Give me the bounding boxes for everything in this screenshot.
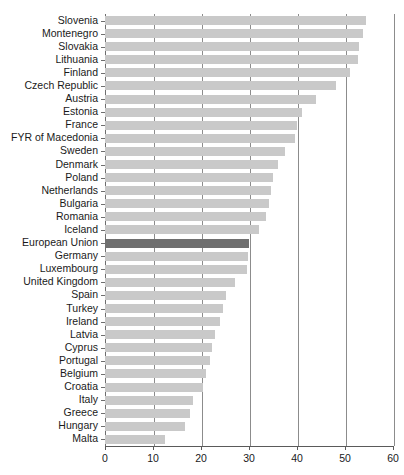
y-axis-tick bbox=[101, 309, 105, 310]
y-axis-tick bbox=[101, 191, 105, 192]
y-axis-tick bbox=[101, 34, 105, 35]
y-axis-tick bbox=[101, 374, 105, 375]
bar bbox=[105, 435, 165, 444]
y-axis-tick bbox=[101, 178, 105, 179]
y-axis-label: Poland bbox=[0, 172, 98, 183]
y-axis-tick bbox=[101, 348, 105, 349]
y-axis-label: FYR of Macedonia bbox=[0, 132, 98, 143]
y-axis-tick bbox=[101, 217, 105, 218]
y-axis-tick bbox=[101, 86, 105, 87]
bar bbox=[105, 108, 302, 117]
y-axis-label: France bbox=[0, 119, 98, 130]
bar bbox=[105, 369, 206, 378]
bar bbox=[105, 212, 266, 221]
bar bbox=[105, 199, 269, 208]
bar bbox=[105, 291, 226, 300]
bar bbox=[105, 186, 271, 195]
y-axis-tick bbox=[101, 99, 105, 100]
y-axis-tick bbox=[101, 282, 105, 283]
y-axis-tick bbox=[101, 112, 105, 113]
bar bbox=[105, 239, 249, 248]
y-axis-label: Romania bbox=[0, 211, 98, 222]
bar bbox=[105, 68, 350, 77]
y-axis-label: Czech Republic bbox=[0, 80, 98, 91]
y-axis-label: Montenegro bbox=[0, 28, 98, 39]
x-axis-tick bbox=[393, 446, 394, 450]
bar bbox=[105, 356, 210, 365]
bar bbox=[105, 383, 203, 392]
bar bbox=[105, 160, 278, 169]
y-axis-label: Sweden bbox=[0, 145, 98, 156]
y-axis-label: Austria bbox=[0, 93, 98, 104]
y-axis-tick bbox=[101, 204, 105, 205]
bar bbox=[105, 173, 273, 182]
y-axis-tick bbox=[101, 439, 105, 440]
y-axis-tick bbox=[101, 295, 105, 296]
y-axis-label: Greece bbox=[0, 407, 98, 418]
bar bbox=[105, 343, 212, 352]
y-axis-tick bbox=[101, 269, 105, 270]
y-axis-label: Croatia bbox=[0, 381, 98, 392]
y-axis-tick bbox=[101, 256, 105, 257]
bar bbox=[105, 95, 316, 104]
y-axis-tick bbox=[101, 151, 105, 152]
y-axis-tick bbox=[101, 387, 105, 388]
y-axis-tick bbox=[101, 47, 105, 48]
bar bbox=[105, 396, 193, 405]
x-axis-tick bbox=[105, 446, 106, 450]
y-axis-tick bbox=[101, 413, 105, 414]
y-axis-label: United Kingdom bbox=[0, 276, 98, 287]
y-axis-label: Denmark bbox=[0, 159, 98, 170]
bar bbox=[105, 121, 297, 130]
bar bbox=[105, 29, 363, 38]
x-axis-tick-label: 30 bbox=[229, 452, 269, 464]
bar bbox=[105, 409, 190, 418]
y-axis-label: Hungary bbox=[0, 420, 98, 431]
y-axis-label: Slovakia bbox=[0, 41, 98, 52]
y-axis-label: European Union bbox=[0, 237, 98, 248]
bar bbox=[105, 16, 366, 25]
x-axis-tick bbox=[345, 446, 346, 450]
y-axis-label: Malta bbox=[0, 433, 98, 444]
clipped-title-strip bbox=[0, 0, 397, 10]
y-axis-label: Italy bbox=[0, 394, 98, 405]
x-axis-tick-label: 50 bbox=[325, 452, 365, 464]
bar bbox=[105, 265, 247, 274]
y-axis-label: Latvia bbox=[0, 329, 98, 340]
y-axis-tick bbox=[101, 335, 105, 336]
y-axis-label: Lithuania bbox=[0, 54, 98, 65]
y-axis-label: Spain bbox=[0, 289, 98, 300]
y-axis-tick bbox=[101, 400, 105, 401]
y-axis-label: Bulgaria bbox=[0, 198, 98, 209]
y-axis-label: Netherlands bbox=[0, 185, 98, 196]
bar bbox=[105, 422, 185, 431]
bar bbox=[105, 55, 358, 64]
y-axis-tick bbox=[101, 138, 105, 139]
bar bbox=[105, 147, 285, 156]
bar bbox=[105, 134, 295, 143]
x-axis-tick bbox=[201, 446, 202, 450]
x-axis-tick-label: 60 bbox=[373, 452, 404, 464]
bar bbox=[105, 317, 220, 326]
y-axis-tick bbox=[101, 125, 105, 126]
bar bbox=[105, 42, 359, 51]
x-axis-tick-label: 10 bbox=[133, 452, 173, 464]
y-axis-label: Iceland bbox=[0, 224, 98, 235]
x-axis-tick-label: 40 bbox=[277, 452, 317, 464]
x-axis-tick-label: 0 bbox=[85, 452, 125, 464]
y-axis-label: Estonia bbox=[0, 106, 98, 117]
bar bbox=[105, 252, 248, 261]
y-axis-label: Turkey bbox=[0, 303, 98, 314]
x-axis-tick bbox=[249, 446, 250, 450]
y-axis-label: Ireland bbox=[0, 316, 98, 327]
y-axis-label: Luxembourg bbox=[0, 263, 98, 274]
y-axis-tick bbox=[101, 426, 105, 427]
y-axis-label: Portugal bbox=[0, 355, 98, 366]
y-axis-tick bbox=[101, 73, 105, 74]
y-axis-label: Finland bbox=[0, 67, 98, 78]
x-axis-tick bbox=[297, 446, 298, 450]
y-axis-tick bbox=[101, 361, 105, 362]
y-axis-label: Cyprus bbox=[0, 342, 98, 353]
y-axis-tick bbox=[101, 60, 105, 61]
